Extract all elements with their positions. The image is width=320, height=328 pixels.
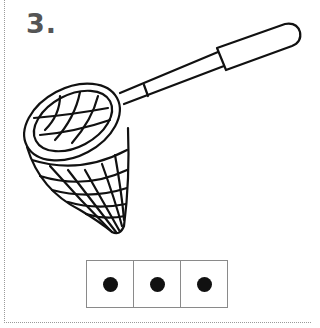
dot-icon xyxy=(197,277,212,292)
count-cell xyxy=(134,261,181,307)
dot-icon xyxy=(150,277,165,292)
count-boxes xyxy=(86,260,228,308)
count-cell xyxy=(87,261,134,307)
count-cell xyxy=(181,261,227,307)
dot-icon xyxy=(103,277,118,292)
